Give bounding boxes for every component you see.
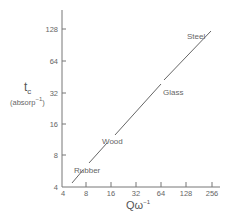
x-tick-128: 128 [180,189,193,198]
y-tick-16: 16 [50,120,58,129]
annotation-wood: Wood [102,137,123,146]
y-tick-32: 32 [50,89,58,98]
y-axis-unit: (absorp−1) [10,96,45,107]
x-ticks [86,182,212,187]
x-tick-8: 8 [84,189,88,198]
x-tick-16: 16 [107,189,115,198]
x-tick-labels: 4 8 16 32 64 128 256 [61,189,218,198]
annotation-steel: Steel [187,32,205,41]
chart-canvas: 4 8 16 32 64 128 4 8 16 32 64 128 256 Ru… [0,0,237,223]
y-tick-8: 8 [54,151,58,160]
y-tick-64: 64 [50,57,58,66]
x-tick-256: 256 [206,189,219,198]
y-tick-4: 4 [54,183,58,192]
y-tick-128: 128 [45,25,58,34]
y-tick-labels: 4 8 16 32 64 128 [45,25,58,192]
y-axis-title: tc [24,80,31,96]
x-tick-4: 4 [61,189,65,198]
data-line [72,31,211,183]
x-axis-title: Qω−1 [126,199,150,211]
annotation-rubber: Rubber [74,166,101,175]
y-ticks [62,29,66,155]
annotation-glass: Glass [163,88,183,97]
x-tick-32: 32 [132,189,140,198]
x-tick-64: 64 [157,189,165,198]
